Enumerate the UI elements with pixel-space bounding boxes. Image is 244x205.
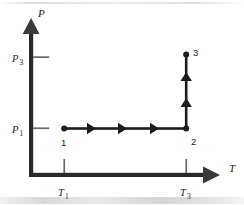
process-arrow-1-2-c (150, 123, 159, 134)
state-point-3 (183, 52, 189, 58)
tick-label-t1: T (58, 187, 65, 198)
state-point-1 (61, 126, 67, 132)
tick-label-p3-subscript: 3 (20, 58, 24, 67)
tick-mark-p3 (33, 56, 49, 58)
tick-label-t1-subscript: 1 (65, 192, 69, 201)
temperature-axis-line (29, 173, 206, 177)
pressure-axis-line (29, 32, 33, 177)
process-diagram-figure: P T P 3 P 1 T 1 T 3 (0, 0, 244, 205)
tick-label-t3-subscript: 3 (187, 192, 191, 201)
tick-mark-t1 (63, 159, 65, 173)
tick-label-t3: T (180, 187, 187, 198)
tick-label-p3: P (11, 53, 19, 64)
temperature-axis-label: T (229, 162, 236, 174)
state-label-3: 3 (193, 47, 198, 58)
tick-mark-t3 (185, 159, 187, 173)
state-label-2: 2 (191, 136, 196, 147)
temperature-axis-arrowhead (203, 166, 220, 183)
process-arrow-2-3-b (181, 98, 192, 107)
tick-mark-p1 (33, 127, 49, 129)
process-arrow-1-2-a (87, 123, 96, 134)
process-arrow-1-2-b (118, 123, 127, 134)
pressure-axis-arrowhead (23, 18, 40, 34)
tick-label-p1: P (11, 124, 19, 135)
tick-label-p1-subscript: 1 (20, 129, 24, 138)
diagram-canvas: P T P 3 P 1 T 1 T 3 (0, 0, 244, 205)
process-line-2-3 (185, 54, 188, 129)
state-label-1: 1 (61, 137, 66, 148)
process-arrow-2-3-a (181, 72, 192, 81)
pressure-axis-label: P (37, 7, 45, 19)
state-point-2 (183, 126, 189, 132)
